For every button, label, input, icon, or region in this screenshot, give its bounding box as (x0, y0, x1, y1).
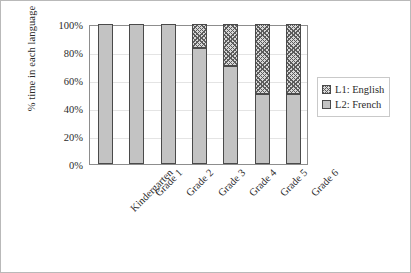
bar-group[interactable] (161, 26, 176, 164)
bar-segment-l2[interactable] (255, 94, 270, 164)
bar-group[interactable] (223, 26, 238, 164)
legend-swatch-l1 (322, 85, 331, 94)
y-tick-label: 0% (69, 160, 83, 171)
x-axis-tick-labels: KindergartenGrade 1Grade 2Grade 3Grade 4… (89, 167, 308, 267)
y-tick-label: 60% (64, 76, 83, 87)
y-tick-label: 20% (64, 132, 83, 143)
y-axis-tick-labels: 0%20%40%60%80%100% (43, 25, 87, 165)
bar-segment-l2[interactable] (286, 94, 301, 164)
bar-series-container (90, 26, 307, 164)
chart-figure: % time in each language 0%20%40%60%80%10… (0, 0, 411, 273)
x-tick-label: Grade 5 (278, 167, 309, 198)
legend-item[interactable]: L2: French (322, 97, 384, 112)
bar-group[interactable] (129, 26, 144, 164)
chart-legend: L1: EnglishL2: French (317, 77, 390, 117)
bar-segment-l2[interactable] (161, 24, 176, 164)
y-tick-label: 80% (64, 48, 83, 59)
legend-swatch-l2 (322, 100, 331, 109)
y-axis-title: % time in each language (26, 0, 37, 134)
x-tick-label: Grade 4 (247, 167, 278, 198)
legend-item[interactable]: L1: English (322, 82, 384, 97)
bar-segment-l2[interactable] (98, 24, 113, 164)
x-tick-label: Grade 2 (184, 167, 215, 198)
bar-segment-l2[interactable] (192, 48, 207, 164)
y-tick-label: 40% (64, 104, 83, 115)
plot-area (89, 25, 308, 165)
bar-segment-l1[interactable] (286, 24, 301, 94)
bar-segment-l1[interactable] (223, 24, 238, 66)
x-tick-label: Grade 6 (309, 167, 340, 198)
bar-group[interactable] (255, 26, 270, 164)
bar-group[interactable] (98, 26, 113, 164)
y-tick-label: 100% (59, 20, 84, 31)
bar-segment-l2[interactable] (129, 24, 144, 164)
bar-group[interactable] (286, 26, 301, 164)
legend-label-l2: L2: French (335, 99, 381, 110)
bar-segment-l2[interactable] (223, 66, 238, 164)
bar-segment-l1[interactable] (255, 24, 270, 94)
bar-segment-l1[interactable] (192, 24, 207, 48)
bar-group[interactable] (192, 26, 207, 164)
legend-label-l1: L1: English (335, 84, 384, 95)
x-tick-label: Grade 3 (215, 167, 246, 198)
